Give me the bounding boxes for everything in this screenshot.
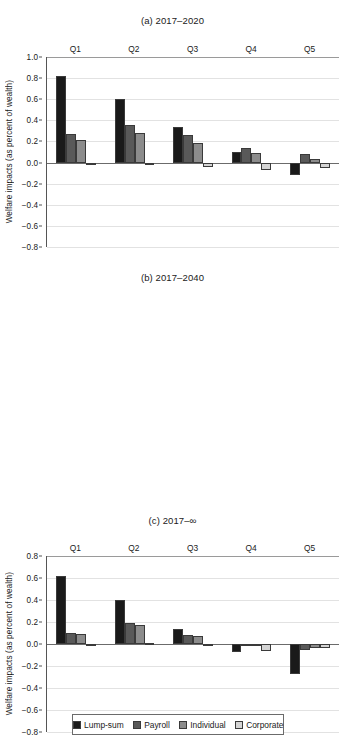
panel-a-y-axis-label: Welfare impacts (as percent of wealth) [2,57,16,247]
bar-q5-corporate [320,163,330,168]
y-tick-label: −0.2 [22,179,38,188]
bar-q3-individual [193,143,203,163]
legend-item-corporate: Corporate [235,720,284,730]
legend-swatch-icon [235,721,243,729]
panel-a-category-labels: Q1Q2Q3Q4Q5 [46,44,339,57]
y-tick-mark [39,120,42,121]
bar-q1-lump-sum [56,76,66,163]
bar-q1-payroll [66,134,76,163]
bar-q1-individual [76,140,86,162]
panel-a-title: (a) 2017–2020 [0,14,345,28]
bar-q4-payroll [241,148,251,163]
bar-q3-corporate [203,163,213,167]
category-label-q4: Q4 [246,44,257,54]
category-label-q2: Q2 [128,44,139,54]
panel-a-plot-area [46,57,339,247]
y-tick-mark [39,183,42,184]
legend-label: Corporate [246,720,283,730]
y-tick-mark [39,247,42,248]
panel-a-y-ticks: 1.00.80.60.40.20.0−0.2−0.4−0.6−0.8 [16,57,42,247]
bar-q4-lump-sum [232,152,242,163]
panel-b: (b) 2017–2040 Q1Q2Q3Q4Q5 Welfare impacts… [0,271,345,506]
y-tick-mark [39,141,42,142]
bar-q2-payroll [125,125,135,163]
y-tick-label: 0.4 [27,116,38,125]
legend-swatch-icon [179,721,187,729]
y-tick-label: 1.0 [27,53,38,62]
category-label-q3: Q3 [187,44,198,54]
y-tick-label: −0.6 [22,221,38,230]
welfare-impacts-figure: (a) 2017–2020 Q1Q2Q3Q4Q5 Welfare impacts… [0,14,345,746]
legend-label: Lump-sum [84,720,124,730]
category-label-q5: Q5 [304,44,315,54]
gridline [47,78,339,79]
legend-item-payroll: Payroll [133,720,170,730]
chart-legend: Lump-sumPayrollIndividualCorporate [72,714,284,735]
bar-q2-individual [135,133,145,163]
bar-q5-payroll [300,154,310,162]
legend-item-lump-sum: Lump-sum [73,720,124,730]
bar-q2-lump-sum [115,99,125,162]
y-tick-label: 0.2 [27,137,38,146]
y-tick-mark [39,78,42,79]
bar-q5-lump-sum [290,163,300,176]
legend-item-individual: Individual [179,720,226,730]
legend-label: Individual [190,720,225,730]
bar-q5-individual [310,159,320,162]
y-tick-label: −0.8 [22,243,38,252]
panel-a-plot: Welfare impacts (as percent of wealth) 1… [0,57,345,247]
bar-q1-corporate [86,163,96,165]
legend-label: Payroll [144,720,170,730]
gridline [47,247,339,248]
y-tick-label: −0.4 [22,200,38,209]
y-tick-label: 0.0 [27,158,38,167]
y-tick-mark [39,204,42,205]
bar-q2-corporate [145,163,155,165]
y-tick-label: 0.6 [27,95,38,104]
panel-a: (a) 2017–2020 Q1Q2Q3Q4Q5 Welfare impacts… [0,14,345,260]
plot-top-rule [47,57,339,58]
panel-c-title: (c) 2017–∞ [0,514,345,528]
y-tick-label: 0.8 [27,74,38,83]
gridline [47,226,339,227]
y-tick-mark [39,57,42,58]
y-tick-mark [39,99,42,100]
panel-b-title: (b) 2017–2040 [0,271,345,285]
gridline [47,184,339,185]
bar-q3-lump-sum [173,127,183,163]
bar-q4-individual [251,153,261,163]
gridline [47,120,339,121]
y-tick-mark [39,162,42,163]
legend-swatch-icon [133,721,141,729]
legend-swatch-icon [73,721,81,729]
panel-c: (c) 2017–∞ Q1Q2Q3Q4Q5 Welfare impacts (a… [0,514,345,744]
category-label-q1: Q1 [70,44,81,54]
bar-q3-payroll [183,135,193,162]
gridline [47,205,339,206]
y-tick-mark [39,225,42,226]
gridline [47,99,339,100]
bar-q4-corporate [261,163,271,170]
